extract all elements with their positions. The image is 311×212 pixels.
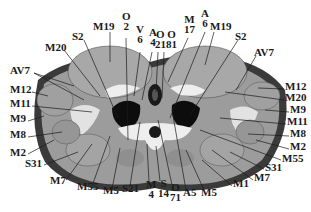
label-m12-right: M12 [285,81,306,91]
label-m8-right: M8 [290,128,306,138]
label-m7-left: M7 [50,175,66,185]
label-s2-right: S2 [235,31,247,41]
label-o21-o81: O O2181 [155,29,177,49]
label-line: 2181 [155,39,177,49]
label-m20-right: M20 [285,92,306,102]
label-m11-right: M11 [287,116,308,126]
label-m55-right: M55 [282,153,303,163]
label-line: 6 [201,18,209,28]
label-m4: M4 [146,179,156,199]
label-line: 14 [158,188,169,198]
label-a5: A5 [183,187,196,197]
label-v6: V6 [136,24,144,44]
label-m9-left: M9 [10,113,26,123]
label-line: 2 [122,21,131,31]
label-av7-left: AV7 [10,65,30,75]
label-line: 6 [136,34,144,44]
label-s2-left: S2 [72,31,84,41]
label-m8-left: M8 [10,129,26,139]
label-m5-left: M5 [103,185,119,195]
label-m19-left: M19 [93,21,114,31]
label-s14: S14 [158,178,169,198]
label-o2-left: O2 [122,11,131,31]
label-m17: M17 [184,14,195,34]
label-a6: A6 [201,8,209,28]
label-m1: M1 [233,178,249,188]
label-m55-left: M55 [77,181,98,191]
label-m2-left: M2 [10,147,26,157]
label-m12-left: M12 [10,84,31,94]
label-m2-right: M2 [290,141,306,151]
label-s31-left: S31 [25,158,42,168]
label-m5-right: M5 [201,187,217,197]
label-m19-right: M19 [210,21,231,31]
label-m9-right: M9 [290,104,306,114]
label-m20-left: M20 [45,42,66,52]
label-m11-left: M11 [10,98,31,108]
label-line: 4 [146,189,156,199]
cross-section-figure: M19O2V6A4O O2181M17A6M19S2S2M20AV7AV7M12… [0,0,311,212]
label-s21: S21 [122,183,139,193]
label-line: 17 [184,24,195,34]
label-line: 71 [170,192,181,202]
label-av7-right: AV7 [254,47,274,57]
label-m7-right: M7 [254,172,270,182]
label-o71: O71 [170,182,181,202]
